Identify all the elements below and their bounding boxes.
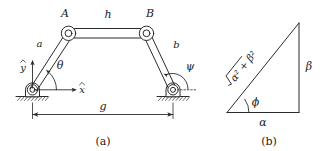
- figure-container: A h B a b θ ψ y x g (a): [0, 0, 324, 151]
- joint-a-pin: [65, 30, 72, 37]
- ground-span-label-g: g: [99, 100, 106, 113]
- left-ground-hatching: [18, 97, 49, 101]
- joint-b-pin: [143, 30, 150, 37]
- joint-a-label: A: [60, 7, 69, 20]
- hypotenuse-label-group: α² + β²: [223, 48, 259, 89]
- psi-angle-label: ψ: [186, 60, 195, 73]
- triangle-horizontal-side-label: α: [259, 116, 267, 129]
- theta-angle-arc: [48, 72, 57, 90]
- phi-angle-label: ϕ: [252, 96, 260, 109]
- right-link-edge-1: [144, 36, 169, 88]
- y-axis-label: y: [19, 62, 26, 73]
- right-bearing-pin: [171, 87, 176, 92]
- left-link-label-a: a: [37, 38, 43, 49]
- right-ground-hatching: [159, 97, 190, 101]
- panel-b-caption: (b): [261, 135, 277, 148]
- figure-svg: A h B a b θ ψ y x g (a): [0, 0, 324, 151]
- right-ground-support: [157, 83, 190, 101]
- panel-a-caption: (a): [95, 135, 110, 148]
- theta-angle-indicator: [46, 70, 57, 90]
- triangle-vertical-side-label: β: [305, 60, 312, 73]
- right-link-b: [144, 33, 175, 88]
- right-link-label-b: b: [173, 39, 179, 50]
- right-link-edge-2: [150, 33, 175, 85]
- panel-a-group: A h B a b θ ψ y x g (a): [16, 7, 197, 148]
- panel-b-group: α² + β² β α ϕ (b): [223, 23, 313, 148]
- x-axis-label: x: [79, 84, 85, 95]
- top-link-label-h: h: [104, 8, 111, 21]
- phi-angle-arc: [245, 99, 249, 112]
- joint-a-bearing: [61, 26, 75, 40]
- joint-b-bearing: [139, 26, 153, 40]
- psi-arc-arrowhead: [164, 74, 169, 78]
- joint-b-label: B: [145, 7, 154, 20]
- theta-angle-label: θ: [57, 59, 64, 72]
- x-axis-label-group: x: [79, 82, 85, 95]
- y-axis-label-group: y: [19, 60, 26, 73]
- top-link-h: [68, 29, 147, 39]
